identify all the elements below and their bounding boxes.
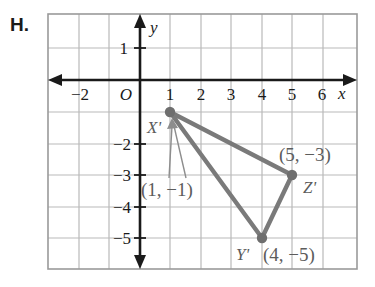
vertex-label-x-prime: X' — [146, 118, 161, 137]
grid-background — [48, 14, 357, 269]
y-tick-label-neg2: −2 — [113, 135, 131, 154]
vertex-label-y-prime: Y' — [236, 245, 249, 264]
x-tick-label-1: 1 — [166, 85, 175, 104]
vertex-dot-z-prime — [287, 170, 297, 180]
coordinate-label-x-prime: (1, −1) — [141, 179, 193, 201]
y-tick-label-neg4: −4 — [113, 198, 132, 217]
coordinate-label-y-prime: (4, −5) — [263, 244, 315, 266]
x-tick-label-5: 5 — [288, 85, 297, 104]
x-axis-label: x — [337, 84, 346, 103]
coordinate-graph: y x −2 O 1 2 3 4 5 6 1 −2 −3 −4 −5 X' Y'… — [0, 0, 375, 287]
x-tick-label-2: 2 — [197, 85, 206, 104]
x-tick-label-3: 3 — [227, 85, 236, 104]
x-tick-label-6: 6 — [318, 85, 327, 104]
y-tick-label-neg3: −3 — [113, 166, 131, 185]
origin-label: O — [120, 85, 132, 104]
vertex-dot-y-prime — [257, 233, 267, 243]
coordinate-plane-figure: H. — [0, 0, 375, 287]
vertex-label-z-prime: Z' — [303, 178, 316, 197]
x-tick-label-neg2: −2 — [71, 85, 89, 104]
vertex-dot-x-prime — [165, 107, 175, 117]
y-tick-label-neg5: −5 — [113, 229, 131, 248]
y-axis-label: y — [148, 18, 158, 37]
x-tick-label-4: 4 — [258, 85, 267, 104]
y-tick-label-1: 1 — [120, 39, 129, 58]
coordinate-label-z-prime: (5, −3) — [279, 144, 331, 166]
